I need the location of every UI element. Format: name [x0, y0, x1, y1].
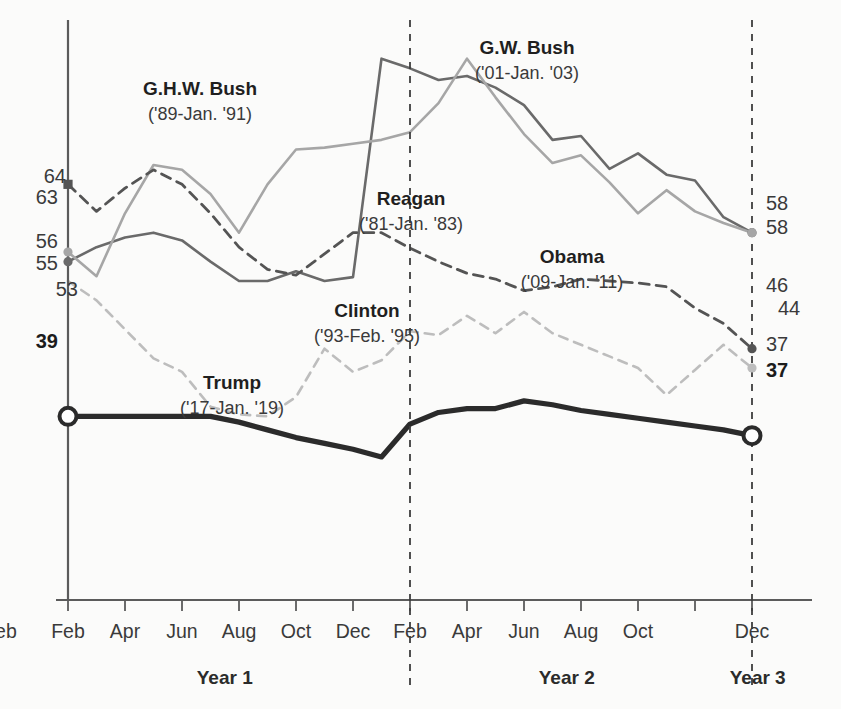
end-value-label: 58 — [766, 192, 788, 214]
start-value-label: 56 — [36, 230, 58, 252]
end-marker-trump — [744, 427, 761, 444]
annotation-president-name: Trump — [203, 372, 261, 393]
annotation-president-name: Clinton — [334, 300, 399, 321]
annotation-president-name: Reagan — [377, 188, 446, 209]
annotation-period: ('01-Jan. '03) — [475, 63, 579, 83]
x-tick-labels-group: FebAprJunAugOctDecFebAprJunAugOctDecFeb — [0, 620, 770, 642]
start-value-label: 53 — [56, 278, 78, 300]
x-tick-label: Feb — [0, 620, 17, 642]
annotation-period: ('93-Feb. '95) — [314, 326, 420, 346]
series-annotation: Obama('09-Jan. '11) — [521, 246, 624, 292]
series-annotations-group: G.H.W. Bush('89-Jan. '91)G.W. Bush('01-J… — [143, 37, 623, 418]
year-band-label: Year 2 — [539, 667, 595, 688]
x-tick-label: Dec — [336, 620, 371, 642]
x-tick-label: Feb — [393, 620, 427, 642]
annotation-period: ('89-Jan. '91) — [148, 104, 252, 124]
end-value-label: 37 — [766, 333, 788, 355]
series-annotation: Reagan('81-Jan. '83) — [359, 188, 463, 234]
end-value-label: 44 — [778, 297, 800, 319]
x-tick-label: Apr — [452, 620, 483, 642]
annotation-period: ('81-Jan. '83) — [359, 214, 463, 234]
poll-approval-line-chart: 646356555339585846443737 FebAprJunAugOct… — [0, 0, 841, 709]
x-tick-label: Aug — [564, 620, 599, 642]
x-tick-label: Dec — [735, 620, 770, 642]
series-annotation: G.H.W. Bush('89-Jan. '91) — [143, 78, 257, 124]
year-band-label: Year 3 — [730, 667, 786, 688]
series-annotation: G.W. Bush('01-Jan. '03) — [475, 37, 579, 83]
x-tick-label: Oct — [623, 620, 654, 642]
year-band-labels-group: Year 1Year 2Year 3 — [197, 667, 786, 688]
end-value-label: 37 — [766, 359, 788, 381]
end-value-label: 46 — [766, 274, 788, 296]
end-marker-clinton — [747, 363, 756, 372]
start-value-label: 55 — [36, 252, 58, 274]
start-marker-trump — [60, 408, 77, 425]
series-annotation: Trump('17-Jan. '19) — [180, 372, 284, 418]
x-tick-label: Aug — [222, 620, 257, 642]
annotation-president-name: G.W. Bush — [480, 37, 575, 58]
start-value-label: 63 — [36, 186, 58, 208]
start-marker-reagan — [63, 247, 72, 256]
x-tick-label: Jun — [166, 620, 197, 642]
end-value-label: 58 — [766, 216, 788, 238]
chart-canvas: 646356555339585846443737 FebAprJunAugOct… — [0, 0, 841, 709]
annotation-period: ('09-Jan. '11) — [521, 272, 624, 292]
annotation-period: ('17-Jan. '19) — [180, 398, 284, 418]
annotation-president-name: G.H.W. Bush — [143, 78, 257, 99]
end-marker-reagan — [747, 228, 756, 237]
x-tick-label: Feb — [51, 620, 85, 642]
start-value-label: 39 — [36, 330, 58, 352]
x-tick-label: Apr — [110, 620, 141, 642]
x-tick-label: Jun — [508, 620, 539, 642]
year-band-label: Year 1 — [197, 667, 253, 688]
start-marker-g-h-w-bush — [63, 257, 72, 266]
annotation-president-name: Obama — [540, 246, 605, 267]
end-marker-g-w-bush — [747, 344, 756, 353]
start-value-label: 64 — [44, 165, 66, 187]
series-annotation: Clinton('93-Feb. '95) — [314, 300, 420, 346]
x-tick-label: Oct — [281, 620, 312, 642]
